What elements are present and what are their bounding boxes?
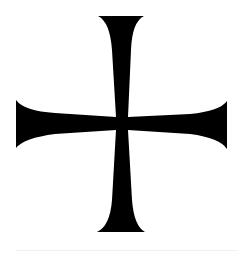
cross-pattee-icon — [0, 0, 244, 256]
footer-line — [16, 250, 238, 251]
cross-shape — [16, 16, 227, 232]
canvas — [0, 0, 244, 256]
